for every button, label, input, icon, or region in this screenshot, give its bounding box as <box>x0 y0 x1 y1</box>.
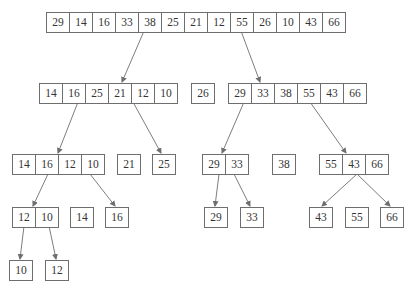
array-cell: 25 <box>153 155 175 174</box>
array-cell: 33 <box>115 13 138 32</box>
array-node-r2c: 554366 <box>319 154 389 175</box>
array-cell: 33 <box>241 208 263 227</box>
array-node-r1: 293338554366 <box>228 83 367 104</box>
array-node-m1: 26 <box>191 83 215 104</box>
array-cell: 66 <box>365 155 388 174</box>
array-cell: 14 <box>69 13 92 32</box>
array-cell: 29 <box>229 84 251 103</box>
array-cell: 21 <box>118 155 140 174</box>
array-cell: 25 <box>161 13 184 32</box>
array-cell: 12 <box>46 261 68 280</box>
array-cell: 29 <box>47 13 69 32</box>
array-cell: 16 <box>106 208 128 227</box>
edge-arrow <box>20 226 24 259</box>
array-cell: 10 <box>81 155 104 174</box>
array-node-r3b: 33 <box>240 207 264 228</box>
array-cell: 55 <box>230 13 253 32</box>
array-cell: 14 <box>40 84 62 103</box>
array-cell: 66 <box>343 84 366 103</box>
array-cell: 12 <box>58 155 81 174</box>
edge-arrow <box>241 31 260 82</box>
array-node-root: 29141633382521125526104366 <box>46 12 346 33</box>
array-node-l3b: 14 <box>70 207 94 228</box>
array-cell: 12 <box>131 84 154 103</box>
array-node-r2a: 2933 <box>202 154 249 175</box>
edge-arrow <box>222 102 244 153</box>
array-cell: 26 <box>192 84 214 103</box>
array-cell: 21 <box>108 84 131 103</box>
array-cell: 12 <box>207 13 230 32</box>
edge-arrow <box>58 102 78 153</box>
array-cell: 55 <box>297 84 320 103</box>
edge-arrow <box>322 174 357 206</box>
edge-arrow <box>133 102 161 153</box>
array-node-r3a: 29 <box>204 207 228 228</box>
array-cell: 12 <box>13 208 35 227</box>
array-cell: 38 <box>273 155 295 174</box>
array-cell: 43 <box>342 155 365 174</box>
array-node-l3a: 1210 <box>12 207 59 228</box>
array-node-l2c: 25 <box>152 154 176 175</box>
array-cell: 43 <box>299 13 322 32</box>
array-node-l2: 14161210 <box>12 154 105 175</box>
edge-arrow <box>310 102 346 153</box>
array-cell: 10 <box>35 208 58 227</box>
edge-arrow <box>215 174 219 206</box>
edge-arrow <box>33 174 48 206</box>
array-cell: 33 <box>225 155 248 174</box>
array-cell: 14 <box>71 208 93 227</box>
array-cell: 14 <box>13 155 35 174</box>
array-cell: 16 <box>92 13 115 32</box>
array-cell: 16 <box>35 155 58 174</box>
array-cell: 10 <box>276 13 299 32</box>
quicksort-diagram: 2914163338252112552610436614162521121026… <box>0 0 414 288</box>
array-cell: 21 <box>184 13 207 32</box>
array-node-r3d: 55 <box>345 207 369 228</box>
array-node-r3c: 43 <box>309 207 333 228</box>
array-node-l4b: 12 <box>45 260 69 281</box>
array-node-r3e: 66 <box>380 207 404 228</box>
array-cell: 29 <box>205 208 227 227</box>
array-cell: 33 <box>251 84 274 103</box>
array-cell: 55 <box>320 155 342 174</box>
array-node-l1: 141625211210 <box>39 83 178 104</box>
array-node-l3c: 16 <box>105 207 129 228</box>
array-cell: 38 <box>274 84 297 103</box>
array-cell: 29 <box>203 155 225 174</box>
array-cell: 10 <box>10 261 32 280</box>
array-cell: 55 <box>346 208 368 227</box>
edge-arrow <box>357 174 390 206</box>
array-cell: 66 <box>322 13 345 32</box>
array-cell: 66 <box>381 208 403 227</box>
edge-arrow <box>90 174 115 206</box>
array-cell: 26 <box>253 13 276 32</box>
edge-arrow <box>122 31 144 82</box>
array-cell: 43 <box>320 84 343 103</box>
edge-arrow <box>234 174 250 206</box>
array-cell: 10 <box>154 84 177 103</box>
array-cell: 16 <box>62 84 85 103</box>
array-cell: 43 <box>310 208 332 227</box>
tree-edges <box>0 0 414 288</box>
array-cell: 25 <box>85 84 108 103</box>
array-node-l4a: 10 <box>9 260 33 281</box>
array-node-r2b: 38 <box>272 154 296 175</box>
array-node-l2b: 21 <box>117 154 141 175</box>
edge-arrow <box>49 226 56 259</box>
array-cell: 38 <box>138 13 161 32</box>
